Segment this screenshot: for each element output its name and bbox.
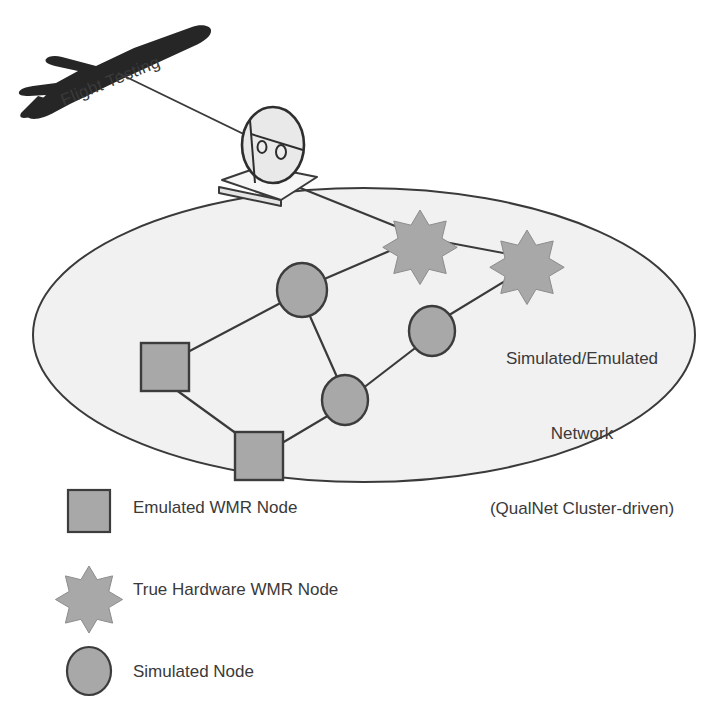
true-hardware-wmr-node <box>490 230 564 305</box>
legend-icon-emulated-wmr-node <box>68 490 110 532</box>
dish-feed-b <box>276 145 286 159</box>
legend-icon-simulated-node <box>67 647 111 695</box>
emulated-wmr-node <box>235 432 283 480</box>
legend-label-true-hardware-wmr-node: True Hardware WMR Node <box>133 580 338 600</box>
network-cloud-label: Simulated/Emulated Network (QualNet Clus… <box>467 296 697 546</box>
simulated-node <box>322 375 368 425</box>
legend-label-emulated-wmr-node: Emulated WMR Node <box>133 498 297 518</box>
simulated-node <box>277 263 327 317</box>
legend-label-simulated-node: Simulated Node <box>133 662 254 682</box>
simulated-node <box>409 306 455 356</box>
true-hardware-wmr-node <box>383 210 457 285</box>
network-cloud-label-line-2: Network <box>467 421 697 446</box>
network-cloud-label-line-1: Simulated/Emulated <box>467 346 697 371</box>
legend-icon-true-hardware-wmr-node <box>56 566 123 633</box>
network-cloud-label-line-3: (QualNet Cluster-driven) <box>467 496 697 521</box>
dish-feed-a <box>258 141 267 153</box>
emulated-wmr-node <box>141 343 189 391</box>
link-aircraft-dish <box>118 73 262 143</box>
